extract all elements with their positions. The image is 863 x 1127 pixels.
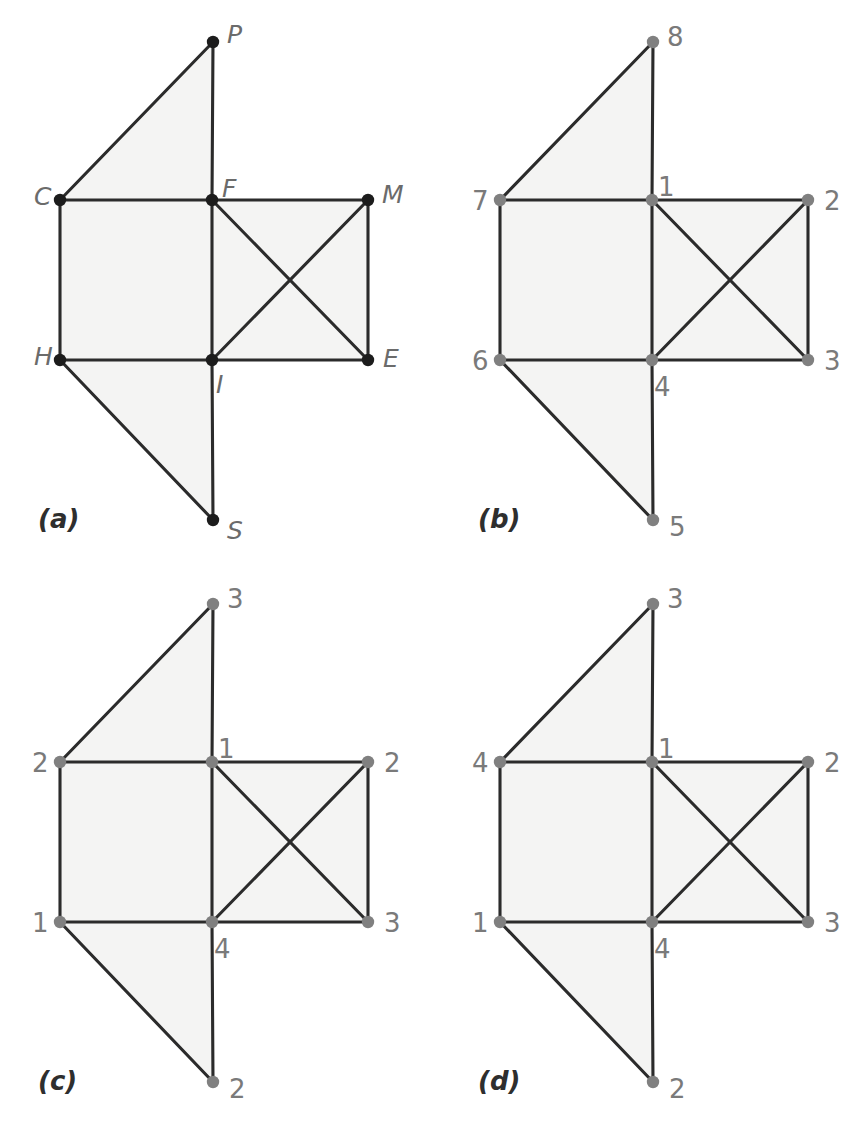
figure-container: PCFMHIES(a)87126435(b)32121432(c)3412143… [0, 0, 863, 1127]
graph-vertex[interactable] [802, 354, 814, 366]
graph-vertex[interactable] [206, 756, 218, 768]
vertex-label: 3 [824, 346, 841, 376]
face-region [60, 762, 212, 922]
vertex-label: 6 [472, 346, 489, 376]
graph-vertex[interactable] [207, 1076, 219, 1088]
graph-vertex[interactable] [54, 194, 66, 206]
vertex-label: S [227, 516, 243, 545]
graph-vertex[interactable] [362, 916, 374, 928]
graph-vertex[interactable] [647, 514, 659, 526]
vertex-label: 2 [824, 748, 841, 778]
vertex-label: P [227, 20, 243, 49]
vertex-label: 2 [384, 748, 401, 778]
vertex-label: 2 [669, 1074, 686, 1104]
panel-caption-a: (a) [38, 504, 79, 534]
vertex-label: 5 [669, 512, 686, 542]
vertex-label: 4 [214, 934, 231, 964]
vertex-label: 1 [472, 908, 489, 938]
vertex-label: 8 [667, 22, 684, 52]
graph-edge [652, 42, 653, 200]
vertex-label: 3 [384, 908, 401, 938]
vertex-label: 3 [824, 908, 841, 938]
vertex-label: 3 [227, 584, 244, 614]
graph-vertex[interactable] [54, 916, 66, 928]
graph-edge [652, 360, 653, 520]
vertex-label: 4 [654, 934, 671, 964]
vertex-label: 1 [218, 734, 235, 764]
face-region [60, 200, 212, 360]
graph-vertex[interactable] [646, 756, 658, 768]
graph-vertex[interactable] [54, 354, 66, 366]
vertex-label: 3 [667, 584, 684, 614]
vertex-label: H [34, 342, 53, 371]
graph-vertex[interactable] [802, 756, 814, 768]
panel-caption-b: (b) [478, 504, 520, 534]
vertex-label: F [222, 174, 237, 203]
graph-edge [212, 604, 213, 762]
graph-vertex[interactable] [362, 756, 374, 768]
graph-vertex[interactable] [802, 916, 814, 928]
vertex-label: E [383, 344, 399, 373]
graph-vertex[interactable] [207, 514, 219, 526]
panel-caption-c: (c) [38, 1066, 77, 1096]
vertex-label: 4 [472, 748, 489, 778]
vertex-label: 2 [824, 186, 841, 216]
graph-vertex[interactable] [494, 354, 506, 366]
graph-vertex[interactable] [494, 756, 506, 768]
vertex-label: 2 [229, 1074, 246, 1104]
graph-edge [212, 42, 213, 200]
graph-edge [212, 360, 213, 520]
graph-vertex[interactable] [647, 36, 659, 48]
graph-vertex[interactable] [207, 36, 219, 48]
vertex-label: 2 [32, 748, 49, 778]
vertex-label: 1 [658, 734, 675, 764]
graph-vertex[interactable] [362, 354, 374, 366]
vertex-label: M [382, 180, 404, 209]
face-region [500, 762, 652, 922]
face-region [500, 200, 652, 360]
graph-vertex[interactable] [647, 1076, 659, 1088]
graph-vertex[interactable] [362, 194, 374, 206]
vertex-label: 4 [654, 372, 671, 402]
vertex-label: 7 [472, 186, 489, 216]
graph-vertex[interactable] [802, 194, 814, 206]
graph-vertex[interactable] [646, 916, 658, 928]
graph-vertex[interactable] [54, 756, 66, 768]
panel-caption-d: (d) [478, 1066, 520, 1096]
graph-vertex[interactable] [207, 598, 219, 610]
graph-vertex[interactable] [494, 916, 506, 928]
graph-edge [652, 604, 653, 762]
graph-edge [652, 922, 653, 1082]
graph-vertex[interactable] [646, 354, 658, 366]
diagram-canvas: PCFMHIES(a)87126435(b)32121432(c)3412143… [0, 0, 863, 1127]
graph-vertex[interactable] [494, 194, 506, 206]
graph-vertex[interactable] [206, 354, 218, 366]
vertex-label: 1 [32, 908, 49, 938]
graph-vertex[interactable] [206, 916, 218, 928]
graph-vertex[interactable] [647, 598, 659, 610]
vertex-label: 1 [658, 172, 675, 202]
graph-edge [212, 922, 213, 1082]
graph-vertex[interactable] [646, 194, 658, 206]
vertex-label: C [34, 182, 52, 211]
vertex-label: I [216, 370, 223, 399]
graph-vertex[interactable] [206, 194, 218, 206]
